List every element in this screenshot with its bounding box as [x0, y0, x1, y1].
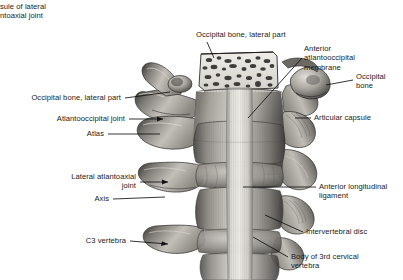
label-atlantooccipital-joint: Atlantooccipital joint	[0, 114, 125, 123]
label-occipital-bone: Occipital bone	[356, 72, 402, 91]
label-articular-capsule: Articular capsule	[314, 113, 403, 122]
label-c3-vertebra: C3 vertebra	[0, 236, 126, 245]
anatomical-figure: sule of lateral ntoaxial joint Occipital…	[0, 0, 403, 280]
label-anterior-atlantooccipital-membrane: Anterior atlantooccipital membrane	[304, 44, 400, 72]
label-intervertebral-disc: Intervertebral disc	[306, 227, 402, 236]
label-body-of-3rd-cervical-vertebra: Body of 3rd cervical vertebra	[291, 252, 403, 271]
label-axis: Axis	[0, 194, 109, 203]
label-capsule-lateral-atlantoaxial-joint: sule of lateral ntoaxial joint	[0, 2, 92, 21]
label-occipital-bone-lateral-part-top: Occipital bone, lateral part	[196, 30, 314, 39]
label-occipital-bone-lateral-part-left: Occipital bone, lateral part	[0, 93, 121, 102]
label-lateral-atlantoaxial-joint: Lateral atlantoaxial joint	[0, 172, 136, 191]
label-anterior-longitudinal-ligament: Anterior longitudinal ligament	[319, 182, 403, 201]
label-atlas: Atlas	[0, 129, 104, 138]
